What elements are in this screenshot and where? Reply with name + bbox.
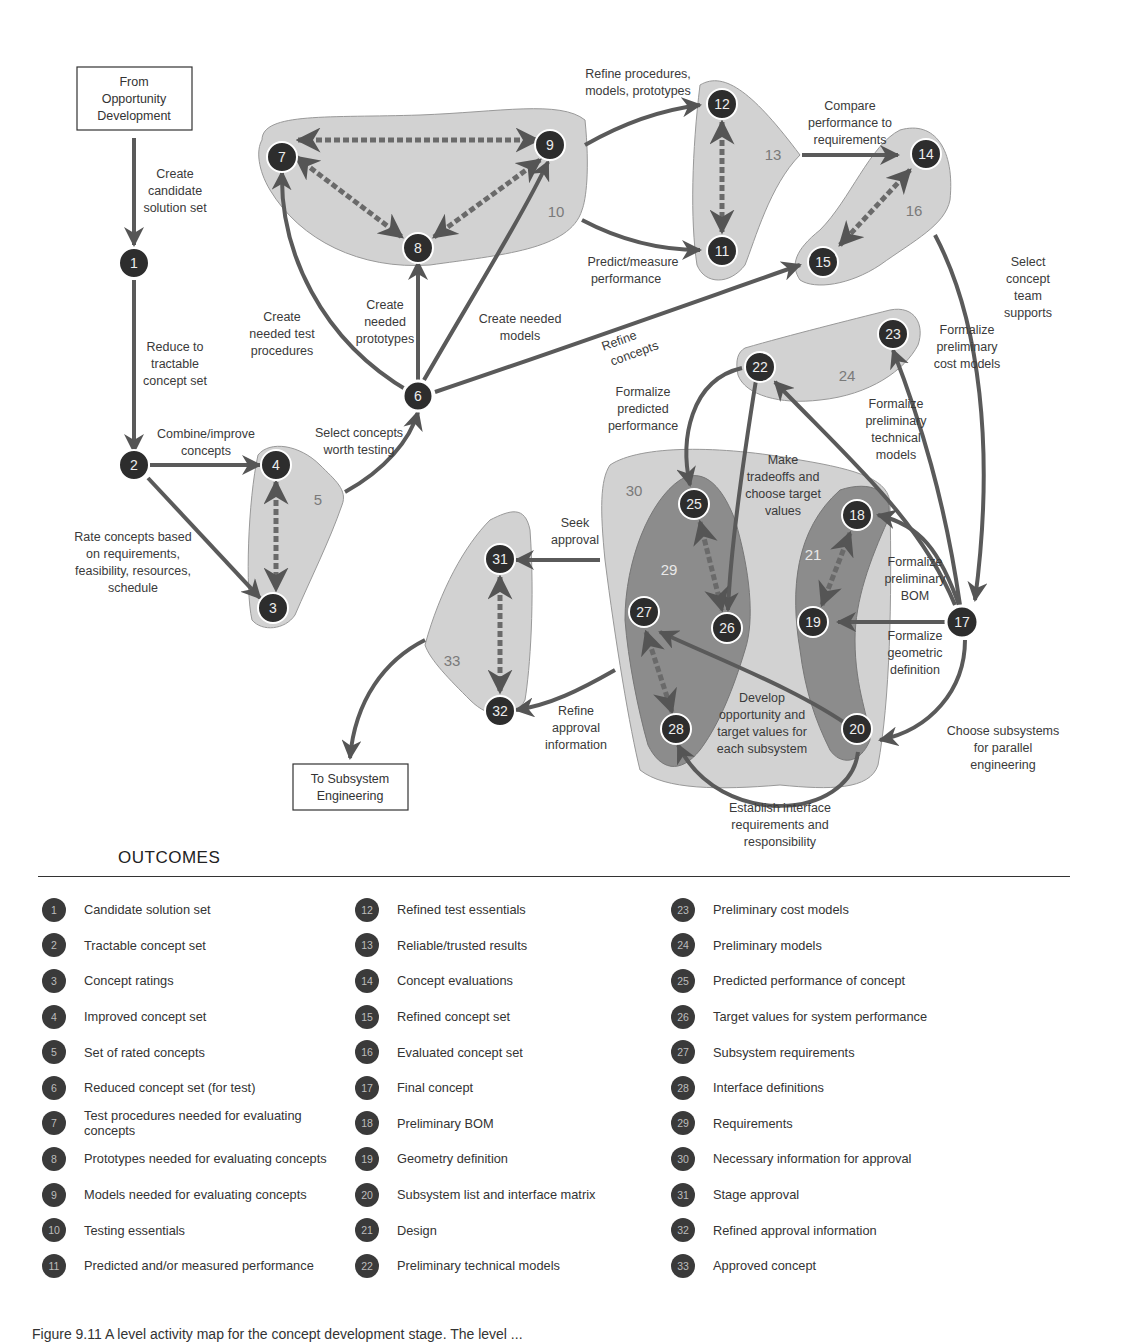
outcome-number-badge: 21 <box>355 1218 379 1242</box>
label-refine-approval: Refineapprovalinformation <box>545 704 607 752</box>
outcome-text: Improved concept set <box>84 1009 206 1024</box>
node-7: 7 <box>267 142 297 172</box>
outcome-text: Final concept <box>397 1080 473 1095</box>
outcome-number-badge: 28 <box>671 1076 695 1100</box>
svg-text:Establish interface: Establish interface <box>729 801 831 815</box>
activity-map-diagram: 5 10 13 16 21 24 29 30 33 From Opportuni… <box>0 0 1125 860</box>
svg-text:27: 27 <box>636 604 652 620</box>
outcome-item: 18Preliminary BOM <box>355 1106 655 1142</box>
outcome-item: 28Interface definitions <box>671 1070 1001 1106</box>
outcome-text: Predicted performance of concept <box>713 973 905 988</box>
outcome-number-badge: 18 <box>355 1111 379 1135</box>
outcomes-title: OUTCOMES <box>118 848 220 868</box>
label-refine-procs: Refine procedures,models, prototypes <box>585 67 691 98</box>
svg-text:geometric: geometric <box>888 646 943 660</box>
svg-text:models: models <box>876 448 916 462</box>
svg-text:information: information <box>545 738 607 752</box>
outcome-number-badge: 10 <box>42 1218 66 1242</box>
label-cost-models: Formalizepreliminarycost models <box>934 323 1001 371</box>
svg-text:9: 9 <box>546 137 554 153</box>
svg-text:definition: definition <box>890 663 940 677</box>
node-18: 18 <box>842 500 872 530</box>
outcome-item: 1Candidate solution set <box>42 892 342 928</box>
svg-text:Combine/improve: Combine/improve <box>157 427 255 441</box>
outcome-text: Reduced concept set (for test) <box>84 1080 255 1095</box>
svg-text:schedule: schedule <box>108 581 158 595</box>
label-predict: Predict/measureperformance <box>587 255 678 286</box>
svg-text:worth testing: worth testing <box>323 443 395 457</box>
outcome-item: 5Set of rated concepts <box>42 1034 342 1070</box>
svg-text:Development: Development <box>97 109 171 123</box>
outcome-text: Tractable concept set <box>84 938 206 953</box>
label-create-proto: Createneededprototypes <box>356 298 414 346</box>
svg-text:choose target: choose target <box>745 487 821 501</box>
svg-text:values: values <box>765 504 801 518</box>
svg-text:procedures: procedures <box>251 344 314 358</box>
node-27: 27 <box>629 597 659 627</box>
label-tech-models: Formalizepreliminarytechnicalmodels <box>865 397 927 462</box>
svg-text:23: 23 <box>885 326 901 342</box>
svg-text:Formalize: Formalize <box>616 385 671 399</box>
svg-text:target values for: target values for <box>717 725 807 739</box>
outcome-text: Design <box>397 1223 437 1238</box>
svg-text:needed: needed <box>364 315 406 329</box>
svg-text:concepts: concepts <box>181 444 231 458</box>
outcome-item: 12Refined test essentials <box>355 892 655 928</box>
svg-text:Select: Select <box>1011 255 1046 269</box>
outcome-item: 21Design <box>355 1212 655 1248</box>
outcomes-column-3: 23Preliminary cost models24Preliminary m… <box>671 892 1001 1284</box>
label-pred-perf: Formalizepredictedperformance <box>608 385 678 433</box>
svg-text:25: 25 <box>686 496 702 512</box>
svg-text:each subsystem: each subsystem <box>717 742 807 756</box>
svg-text:for parallel: for parallel <box>974 741 1032 755</box>
outcome-text: Predicted and/or measured performance <box>84 1258 314 1273</box>
svg-text:Reduce to: Reduce to <box>147 340 204 354</box>
outcome-number-badge: 23 <box>671 898 695 922</box>
svg-text:Rate concepts based: Rate concepts based <box>74 530 191 544</box>
svg-text:Seek: Seek <box>561 516 590 530</box>
node-11: 11 <box>707 236 737 266</box>
label-refine-concepts: Refineconcepts <box>600 322 660 369</box>
outcome-text: Preliminary technical models <box>397 1258 560 1273</box>
outcome-number-badge: 7 <box>42 1111 66 1135</box>
outcome-item: 25Predicted performance of concept <box>671 963 1001 999</box>
outcome-item: 26Target values for system performance <box>671 999 1001 1035</box>
svg-text:Opportunity: Opportunity <box>102 92 167 106</box>
outcomes-divider <box>38 876 1070 877</box>
label-geometric: Formalizegeometricdefinition <box>888 629 943 677</box>
svg-text:Create: Create <box>263 310 301 324</box>
svg-text:Formalize: Formalize <box>888 555 943 569</box>
svg-text:responsibility: responsibility <box>744 835 817 849</box>
outcome-text: Geometry definition <box>397 1151 508 1166</box>
svg-text:Choose subsystems: Choose subsystems <box>947 724 1060 738</box>
svg-text:performance: performance <box>608 419 678 433</box>
group-label-30: 30 <box>626 482 643 499</box>
svg-text:approval: approval <box>552 721 600 735</box>
label-create-candidate: Createcandidatesolution set <box>143 167 207 215</box>
label-choose-subsystems: Choose subsystemsfor parallelengineering <box>947 724 1060 772</box>
svg-text:cost models: cost models <box>934 357 1001 371</box>
svg-text:needed test: needed test <box>249 327 315 341</box>
svg-text:32: 32 <box>492 703 508 719</box>
outcome-text: Requirements <box>713 1116 793 1131</box>
outcome-text: Models needed for evaluating concepts <box>84 1187 307 1202</box>
svg-text:22: 22 <box>752 359 768 375</box>
outcome-item: 19Geometry definition <box>355 1141 655 1177</box>
outcome-number-badge: 30 <box>671 1147 695 1171</box>
svg-text:preliminary: preliminary <box>936 340 998 354</box>
node-8: 8 <box>403 233 433 263</box>
node-6: 6 <box>403 381 433 411</box>
outcome-number-badge: 26 <box>671 1005 695 1029</box>
outcome-item: 7Test procedures needed for evaluating c… <box>42 1106 342 1142</box>
node-12: 12 <box>707 89 737 119</box>
group-label-24: 24 <box>839 367 856 384</box>
svg-text:preliminary: preliminary <box>865 414 927 428</box>
label-create-models: Create neededmodels <box>479 312 562 343</box>
svg-text:requirements: requirements <box>814 133 887 147</box>
label-select-team: Selectconceptteamsupports <box>1004 255 1052 320</box>
outcome-item: 11Predicted and/or measured performance <box>42 1248 342 1284</box>
group-label-29: 29 <box>661 561 678 578</box>
svg-text:performance: performance <box>591 272 661 286</box>
outcome-number-badge: 31 <box>671 1183 695 1207</box>
svg-text:Develop: Develop <box>739 691 785 705</box>
